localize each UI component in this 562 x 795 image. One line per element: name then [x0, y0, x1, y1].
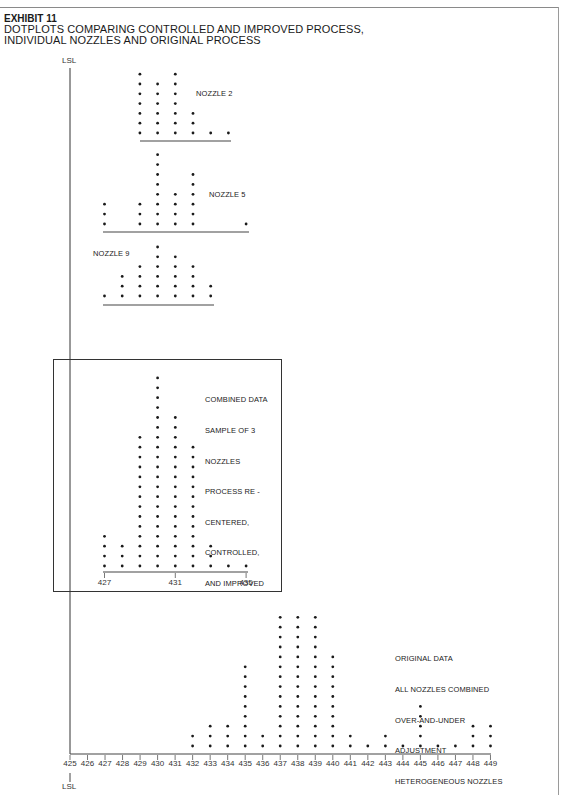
data-dot [192, 173, 195, 176]
original-label-line: ORIGINAL DATA [395, 654, 503, 664]
data-dot [103, 213, 106, 216]
data-dot [279, 725, 282, 728]
data-dot [331, 715, 334, 718]
data-dot [296, 745, 299, 748]
data-dot [331, 705, 334, 708]
data-dot [174, 122, 177, 125]
data-dot [139, 466, 142, 469]
combined-label-line: CENTERED, [205, 518, 268, 528]
tick-label: 437 [274, 759, 287, 768]
data-dot [174, 285, 177, 288]
data-dot [244, 675, 247, 678]
data-dot [139, 525, 142, 528]
tick-label: 432 [186, 759, 199, 768]
original-label-line: HETEROGENEOUS NOZZLES [395, 777, 503, 787]
data-dot [156, 275, 159, 278]
data-dot [192, 515, 195, 518]
data-dot [156, 416, 159, 419]
lsl-bottom-label: LSL [62, 782, 76, 791]
tick-label: 431 [169, 578, 182, 587]
data-dot [314, 685, 317, 688]
data-dot [192, 525, 195, 528]
data-dot [279, 685, 282, 688]
tick-label: 425 [63, 759, 76, 768]
data-dot [156, 295, 159, 298]
data-dot [156, 406, 159, 409]
data-dot [261, 735, 264, 738]
data-dot [156, 153, 159, 156]
data-dot [227, 132, 230, 135]
data-dot [139, 456, 142, 459]
data-dot [192, 183, 195, 186]
data-dot [156, 163, 159, 166]
data-dot [156, 456, 159, 459]
data-dot [296, 646, 299, 649]
data-dot [296, 626, 299, 629]
data-dot [139, 112, 142, 115]
data-dot [191, 745, 194, 748]
combined-label-line: CONTROLLED, [205, 548, 268, 558]
data-dot [121, 545, 124, 548]
data-dot [192, 112, 195, 115]
data-dot [279, 665, 282, 668]
data-dot [296, 685, 299, 688]
data-dot [139, 275, 142, 278]
data-dot [174, 515, 177, 518]
data-dot [156, 505, 159, 508]
data-dot [192, 456, 195, 459]
data-dot [103, 535, 106, 538]
data-dot [156, 265, 159, 268]
nozzle5-label: NOZZLE 5 [209, 190, 246, 200]
data-dot [174, 255, 177, 258]
nozzle2-label: NOZZLE 2 [196, 89, 233, 99]
data-dot [139, 122, 142, 125]
tick-label: 448 [466, 759, 479, 768]
data-dot [174, 193, 177, 196]
data-dot [279, 656, 282, 659]
data-dot [192, 132, 195, 135]
data-dot [156, 223, 159, 226]
data-dot [174, 73, 177, 76]
data-dot [192, 285, 195, 288]
data-dot [139, 223, 142, 226]
data-dot [103, 295, 106, 298]
data-dot [156, 515, 159, 518]
combined-label-line: AND IMPROVED [205, 579, 268, 589]
data-dot [384, 735, 387, 738]
data-dot [174, 485, 177, 488]
data-dot [156, 525, 159, 528]
tick-label: 449 [484, 759, 497, 768]
data-dot [156, 285, 159, 288]
data-dot [139, 535, 142, 538]
data-dot [174, 436, 177, 439]
combined-label-line: COMBINED DATA [205, 395, 268, 405]
data-dot [192, 485, 195, 488]
data-dot [174, 426, 177, 429]
original-label-line: ADJUSTMENT [395, 746, 503, 756]
data-dot [156, 122, 159, 125]
tick-label: 431 [168, 759, 181, 768]
data-dot [121, 295, 124, 298]
data-dot [384, 745, 387, 748]
tick-label: 428 [116, 759, 129, 768]
data-dot [279, 675, 282, 678]
data-dot [139, 213, 142, 216]
data-dot [331, 745, 334, 748]
data-dot [314, 745, 317, 748]
data-dot [121, 555, 124, 558]
data-dot [192, 203, 195, 206]
data-dot [192, 545, 195, 548]
data-dot [156, 476, 159, 479]
data-dot [209, 735, 212, 738]
data-dot [156, 255, 159, 258]
data-dot [174, 545, 177, 548]
data-dot [314, 616, 317, 619]
data-dot [279, 626, 282, 629]
data-dot [139, 285, 142, 288]
data-dot [192, 495, 195, 498]
data-dot [226, 725, 229, 728]
data-dot [314, 695, 317, 698]
data-dot [314, 705, 317, 708]
data-dot [139, 505, 142, 508]
data-dot [192, 555, 195, 558]
